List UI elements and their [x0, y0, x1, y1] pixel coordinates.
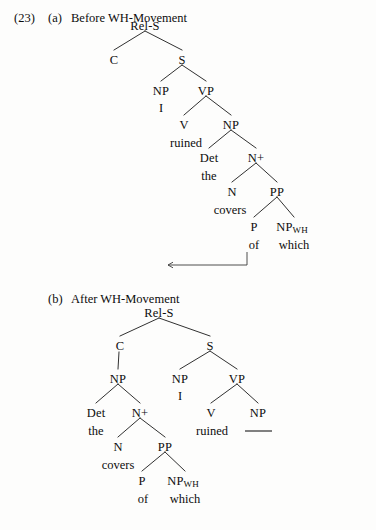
b-terminal-covers: covers — [102, 459, 135, 472]
a-node-np-subject: NP — [153, 85, 169, 98]
b-node-np-subject: NP — [172, 373, 188, 386]
b-node-np-wh: NPWH — [167, 475, 199, 489]
b-node-wh-subscript: WH — [184, 479, 199, 489]
a-node-v: V — [179, 119, 188, 132]
a-node-rel-s: Rel-S — [130, 20, 159, 33]
b-terminal-ruined: ruined — [196, 425, 228, 438]
figure-page: (23) (a) Before WH-Movement (b) After WH… — [0, 0, 376, 530]
a-node-det: Det — [200, 152, 219, 165]
panel-a-caption: Before WH-Movement — [71, 12, 187, 25]
b-node-vp: VP — [229, 373, 245, 386]
panel-b-letter: (b) — [48, 293, 63, 306]
a-terminal-which: which — [279, 239, 310, 252]
b-terminal-i: I — [178, 390, 182, 403]
a-terminal-i: I — [159, 102, 163, 115]
a-terminal-the: the — [201, 170, 216, 183]
a-node-vp: VP — [198, 85, 214, 98]
a-node-np-wh: NPWH — [276, 221, 308, 235]
a-node-wh-subscript: WH — [293, 225, 308, 235]
b-node-c: C — [116, 340, 125, 353]
a-node-np-object: NP — [223, 119, 239, 132]
b-node-rel-s: Rel-S — [144, 307, 173, 320]
figure-number: (23) — [14, 12, 35, 25]
b-node-np-wh-base: NP — [167, 474, 183, 488]
b-terminal-the: the — [88, 425, 103, 438]
b-node-n: N — [113, 441, 122, 454]
b-node-det: Det — [87, 407, 106, 420]
a-node-np-wh-base: NP — [276, 220, 292, 234]
tree-branch-lines — [0, 0, 376, 530]
b-node-n-plus: N+ — [132, 407, 148, 420]
a-terminal-ruined: ruined — [170, 137, 202, 150]
b-node-s: S — [206, 340, 213, 353]
b-terminal-which: which — [170, 493, 201, 506]
panel-a-letter: (a) — [48, 12, 62, 25]
a-node-c: C — [110, 54, 119, 67]
a-node-pp: PP — [270, 186, 284, 199]
a-terminal-of: of — [249, 239, 259, 252]
b-node-v: V — [206, 407, 215, 420]
wh-movement-arrow — [168, 252, 247, 268]
b-node-np-relative: NP — [110, 373, 126, 386]
b-node-np-trace: NP — [250, 407, 266, 420]
panel-b-caption: After WH-Movement — [71, 293, 179, 306]
b-node-pp: PP — [158, 441, 172, 454]
a-node-n: N — [227, 186, 236, 199]
a-terminal-covers: covers — [214, 204, 247, 217]
b-node-p: P — [138, 475, 145, 488]
b-terminal-of: of — [138, 493, 148, 506]
a-node-s: S — [178, 54, 185, 67]
a-node-p: P — [250, 221, 257, 234]
a-node-n-plus: N+ — [248, 152, 264, 165]
